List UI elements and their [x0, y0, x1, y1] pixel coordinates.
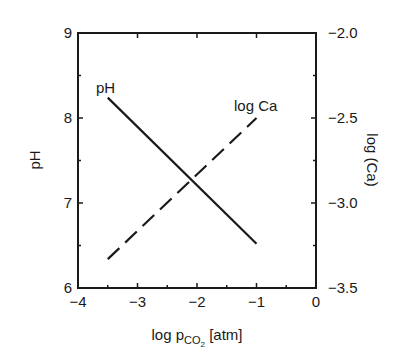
x-tick-label: −3 — [129, 293, 146, 310]
y-tick-label: 9 — [64, 24, 72, 41]
x-tick-labels: −4−3−2−10 — [69, 293, 320, 310]
series-label-ph: pH — [96, 79, 115, 96]
y-tick-label: 8 — [64, 109, 72, 126]
y2-tick-label: −3.0 — [328, 194, 358, 211]
plot-frame — [78, 33, 316, 288]
x-axis-title: log pCO2 [atm] — [152, 326, 243, 349]
y2-axis-title: log (Ca) — [364, 133, 381, 186]
y-tick-label: 6 — [64, 279, 72, 296]
y2-tick-label: −2.0 — [328, 24, 358, 41]
axis-ticks — [78, 33, 316, 288]
series-label-log-ca: log Ca — [234, 97, 278, 114]
x-tick-label: −4 — [69, 293, 86, 310]
chart: −4−3−2−10 6789 −3.5−3.0−2.5−2.0 pH log C… — [0, 0, 404, 363]
y-axis-title: pH — [26, 150, 43, 169]
x-tick-label: −1 — [248, 293, 265, 310]
y2-tick-label: −3.5 — [328, 279, 358, 296]
x-tick-label: −2 — [188, 293, 205, 310]
series-log-ca-line — [108, 118, 257, 259]
y2-tick-label: −2.5 — [328, 109, 358, 126]
y-tick-label: 7 — [64, 194, 72, 211]
series-ph-line — [108, 98, 257, 244]
x-tick-label: 0 — [312, 293, 320, 310]
y2-tick-labels: −3.5−3.0−2.5−2.0 — [328, 24, 358, 296]
y-tick-labels: 6789 — [64, 24, 72, 296]
